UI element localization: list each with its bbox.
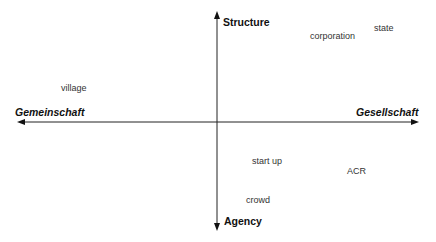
item-state: state	[374, 24, 394, 33]
arrow-right-icon	[411, 119, 419, 125]
item-start-up: start up	[252, 157, 282, 166]
item-village: village	[61, 84, 87, 93]
item-corporation: corporation	[310, 32, 355, 41]
quadrant-diagram	[0, 0, 436, 242]
item-crowd: crowd	[246, 196, 270, 205]
arrow-up-icon	[214, 11, 220, 19]
axis-label-structure: Structure	[223, 17, 270, 28]
item-acr: ACR	[347, 167, 366, 176]
axis-label-gesellschaft: Gesellschaft	[356, 107, 418, 118]
arrow-left-icon	[17, 119, 25, 125]
axis-label-agency: Agency	[224, 216, 262, 227]
arrow-down-icon	[214, 223, 220, 231]
axis-label-gemeinschaft: Gemeinschaft	[15, 107, 84, 118]
